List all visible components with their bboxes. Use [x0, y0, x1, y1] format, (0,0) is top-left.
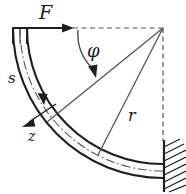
curved-beam-figure: F φ s z r [0, 0, 186, 194]
angle-arc-arrow-head [88, 64, 97, 78]
fixed-support [164, 139, 186, 192]
force-arrow-icon [14, 24, 74, 33]
force-label: F [38, 1, 53, 23]
arc-coordinate-label: s [8, 69, 16, 87]
angle-label: φ [87, 40, 100, 61]
normal-coordinate-label: z [27, 128, 36, 144]
fixed-support-hatching-icon [164, 139, 186, 192]
z-arrow-head [22, 119, 35, 127]
figure-canvas: F φ s z r [0, 0, 186, 194]
phi-radius-ray [47, 28, 163, 122]
radius-label: r [128, 106, 137, 125]
force-arrow-head [62, 24, 74, 33]
z-direction-arrow-icon [22, 104, 56, 127]
radius-rays [47, 28, 163, 155]
r-radius-ray [98, 28, 163, 155]
